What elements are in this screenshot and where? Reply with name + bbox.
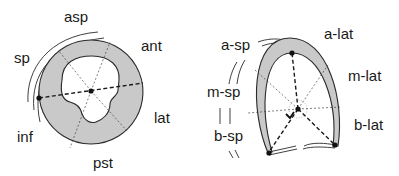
center-point: [88, 88, 93, 93]
label-m-lat: m-lat: [348, 68, 381, 83]
label-a-lat: a-lat: [324, 26, 353, 41]
mitral-annulus: [269, 143, 335, 155]
label-b-sp: b-sp: [214, 128, 243, 143]
myocardial-wall-horseshoe: [256, 38, 339, 153]
label-asp: asp: [64, 9, 88, 24]
label-a-sp: a-sp: [221, 37, 250, 52]
label-ant: ant: [141, 38, 162, 53]
short-axis-view: [28, 32, 143, 148]
lateral-base-point: [332, 142, 337, 147]
septal-insertion-point: [36, 95, 41, 100]
centroid-point: [295, 106, 300, 111]
label-lat: lat: [154, 110, 170, 125]
septal-base-point: [266, 150, 271, 155]
apex-point: [289, 50, 294, 55]
label-m-sp: m-sp: [207, 84, 240, 99]
label-inf: inf: [17, 129, 33, 144]
label-sp: sp: [14, 50, 30, 65]
label-pst: pst: [93, 155, 113, 170]
label-b-lat: b-lat: [354, 117, 383, 132]
